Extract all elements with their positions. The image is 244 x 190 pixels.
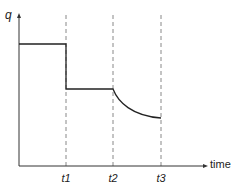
tick-label-t3: t3	[156, 172, 165, 184]
x-axis-label: time	[210, 158, 231, 170]
y-axis-arrow-icon	[17, 13, 21, 18]
chart: q time t1 t2 t3	[0, 0, 244, 190]
x-axis-arrow-icon	[203, 164, 208, 168]
y-axis-label: q	[5, 8, 12, 22]
q-series-line	[19, 44, 161, 118]
tick-label-t2: t2	[108, 172, 117, 184]
tick-label-t1: t1	[61, 172, 70, 184]
chart-canvas	[0, 0, 244, 190]
